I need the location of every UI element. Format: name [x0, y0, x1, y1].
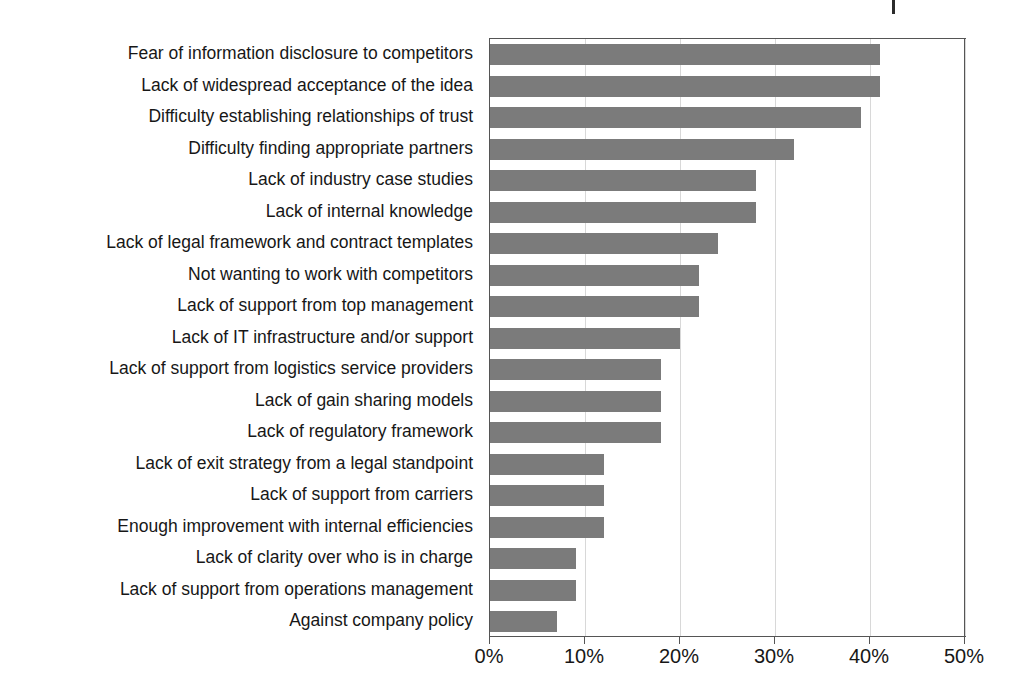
x-tick-label: 50%	[944, 645, 984, 668]
bar-row	[490, 228, 964, 259]
bar	[490, 328, 680, 349]
category-label: Difficulty establishing relationships of…	[148, 101, 473, 132]
bar	[490, 359, 661, 380]
bar-row	[490, 543, 964, 574]
x-axis-tick-labels: 0%10%20%30%40%50%	[0, 645, 1013, 675]
bar	[490, 485, 604, 506]
bar-row	[490, 102, 964, 133]
bar-chart-figure: Fear of information disclosure to compet…	[0, 0, 1013, 695]
category-label: Not wanting to work with competitors	[188, 259, 473, 290]
x-tick	[869, 637, 870, 644]
category-label: Fear of information disclosure to compet…	[128, 38, 473, 69]
category-label: Lack of regulatory framework	[247, 416, 473, 447]
category-label: Lack of widespread acceptance of the ide…	[141, 70, 473, 101]
bar-row	[490, 134, 964, 165]
bar-row	[490, 71, 964, 102]
x-tick-label: 10%	[564, 645, 604, 668]
category-label: Lack of support from operations manageme…	[120, 574, 473, 605]
bar	[490, 611, 557, 632]
bar	[490, 580, 576, 601]
x-tick	[964, 637, 965, 644]
category-label: Lack of support from logistics service p…	[109, 353, 473, 384]
bar	[490, 170, 756, 191]
x-tick	[679, 637, 680, 644]
bar-row	[490, 480, 964, 511]
scan-artifact-mark	[892, 0, 895, 14]
category-label: Against company policy	[289, 605, 473, 636]
category-label: Lack of exit strategy from a legal stand…	[135, 448, 473, 479]
bar	[490, 391, 661, 412]
plot-area	[489, 38, 966, 637]
x-tick	[774, 637, 775, 644]
bar-row	[490, 197, 964, 228]
clipped-title-ghost	[300, 0, 730, 4]
x-axis-ticks	[489, 637, 966, 645]
bar	[490, 517, 604, 538]
x-tick-label: 0%	[475, 645, 504, 668]
category-label: Enough improvement with internal efficie…	[117, 511, 473, 542]
gridline-50%	[965, 39, 966, 636]
bar-row	[490, 386, 964, 417]
bar-row	[490, 323, 964, 354]
bar-row	[490, 606, 964, 637]
category-axis-labels: Fear of information disclosure to compet…	[0, 38, 481, 637]
bar	[490, 202, 756, 223]
category-label: Lack of support from carriers	[250, 479, 473, 510]
x-tick	[584, 637, 585, 644]
category-label: Lack of industry case studies	[248, 164, 473, 195]
bar-row	[490, 291, 964, 322]
bar	[490, 422, 661, 443]
bar	[490, 548, 576, 569]
category-label: Difficulty finding appropriate partners	[188, 133, 473, 164]
bar	[490, 76, 880, 97]
bar-row	[490, 575, 964, 606]
bar-row	[490, 449, 964, 480]
bar-row	[490, 354, 964, 385]
bar-row	[490, 512, 964, 543]
bar	[490, 296, 699, 317]
bar	[490, 454, 604, 475]
bar	[490, 233, 718, 254]
bar-row	[490, 417, 964, 448]
bar	[490, 265, 699, 286]
bar	[490, 44, 880, 65]
bar-row	[490, 165, 964, 196]
category-label: Lack of internal knowledge	[266, 196, 473, 227]
bar-row	[490, 39, 964, 70]
x-tick-label: 30%	[754, 645, 794, 668]
category-label: Lack of IT infrastructure and/or support	[172, 322, 473, 353]
bar	[490, 139, 794, 160]
category-label: Lack of clarity over who is in charge	[196, 542, 473, 573]
bar-row	[490, 260, 964, 291]
category-label: Lack of gain sharing models	[255, 385, 473, 416]
x-tick-label: 40%	[849, 645, 889, 668]
category-label: Lack of legal framework and contract tem…	[106, 227, 473, 258]
x-tick	[489, 637, 490, 644]
category-label: Lack of support from top management	[177, 290, 473, 321]
x-tick-label: 20%	[659, 645, 699, 668]
bar	[490, 107, 861, 128]
